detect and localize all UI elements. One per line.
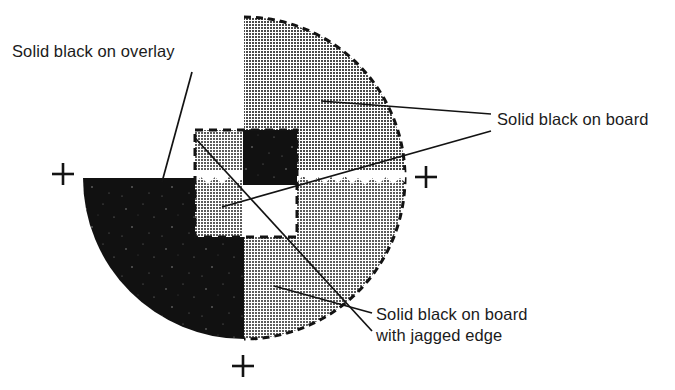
registration-mark-left <box>52 163 74 185</box>
figure-canvas: Solid black on overlay Solid black on bo… <box>0 0 675 390</box>
registration-mark-right <box>415 166 437 188</box>
registration-mark-bottom <box>232 355 254 377</box>
registration-test-figure: Solid black on overlay Solid black on bo… <box>0 0 675 390</box>
overlay-black-patch <box>243 130 297 185</box>
overlay-dashed-square <box>195 130 297 237</box>
label-solid-black-on-board: Solid black on board <box>497 110 649 128</box>
label-solid-black-on-board-jagged-line1: Solid black on board <box>376 305 528 323</box>
label-solid-black-on-board-jagged-line2: with jagged edge <box>375 326 502 344</box>
label-solid-black-on-overlay: Solid black on overlay <box>12 42 175 60</box>
overlay-cell-bottom-left <box>195 185 243 237</box>
